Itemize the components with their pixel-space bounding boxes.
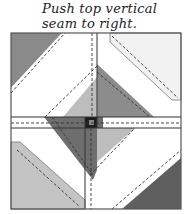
quilt-block-diagram xyxy=(0,0,190,214)
center-square-medium xyxy=(97,117,103,128)
center-square-inner xyxy=(89,120,94,125)
